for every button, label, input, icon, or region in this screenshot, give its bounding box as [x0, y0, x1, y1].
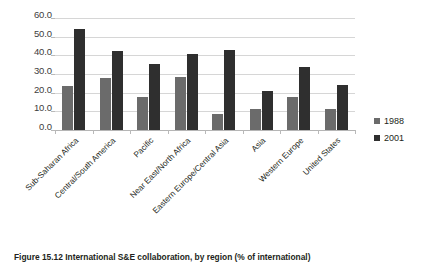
y-axis-tick-label: 30.0 — [8, 66, 52, 76]
bar-2001 — [337, 85, 348, 130]
bar-1988 — [287, 97, 298, 130]
bar-group — [55, 18, 93, 130]
y-axis: 0.010.020.030.040.050.060.0 — [8, 14, 52, 132]
bar-2001 — [262, 91, 273, 130]
bar-2001 — [224, 50, 235, 130]
bar-2001 — [74, 29, 85, 130]
bar-2001 — [187, 54, 198, 130]
bar-group — [280, 18, 318, 130]
legend-swatch-icon — [374, 135, 380, 141]
y-axis-tick-label: 60.0 — [8, 10, 52, 20]
bar-group — [318, 18, 356, 130]
bar-2001 — [149, 64, 160, 130]
plot-area — [55, 18, 355, 130]
y-axis-tick-label: 40.0 — [8, 47, 52, 57]
legend-item: 2001 — [374, 131, 420, 145]
bar-group — [205, 18, 243, 130]
figure-caption: Figure 15.12 International S&E collabora… — [14, 252, 414, 262]
bar-chart: 0.010.020.030.040.050.060.0 Sub-Saharan … — [0, 0, 421, 240]
bar-2001 — [299, 67, 310, 130]
bar-2001 — [112, 51, 123, 130]
bar-1988 — [250, 109, 261, 130]
y-axis-tick-label: 10.0 — [8, 103, 52, 113]
figure-container: 0.010.020.030.040.050.060.0 Sub-Saharan … — [0, 0, 421, 265]
bar-1988 — [100, 78, 111, 130]
bar-1988 — [325, 109, 336, 130]
bar-group — [93, 18, 131, 130]
bar-group — [130, 18, 168, 130]
legend-label: 1988 — [384, 117, 404, 126]
bar-1988 — [62, 86, 73, 130]
bar-group — [243, 18, 281, 130]
legend-label: 2001 — [384, 134, 404, 143]
chart-legend: 19882001 — [374, 114, 420, 148]
bar-1988 — [137, 97, 148, 130]
legend-item: 1988 — [374, 114, 420, 128]
y-axis-tick-label: 50.0 — [8, 29, 52, 39]
y-axis-tick-label: 0.0 — [8, 122, 52, 132]
y-axis-tick-label: 20.0 — [8, 85, 52, 95]
bar-group — [168, 18, 206, 130]
legend-swatch-icon — [374, 118, 380, 124]
bar-1988 — [212, 114, 223, 130]
bar-1988 — [175, 77, 186, 130]
x-axis-category-labels: Sub-Saharan AfricaCentral/South AmericaP… — [0, 132, 421, 237]
